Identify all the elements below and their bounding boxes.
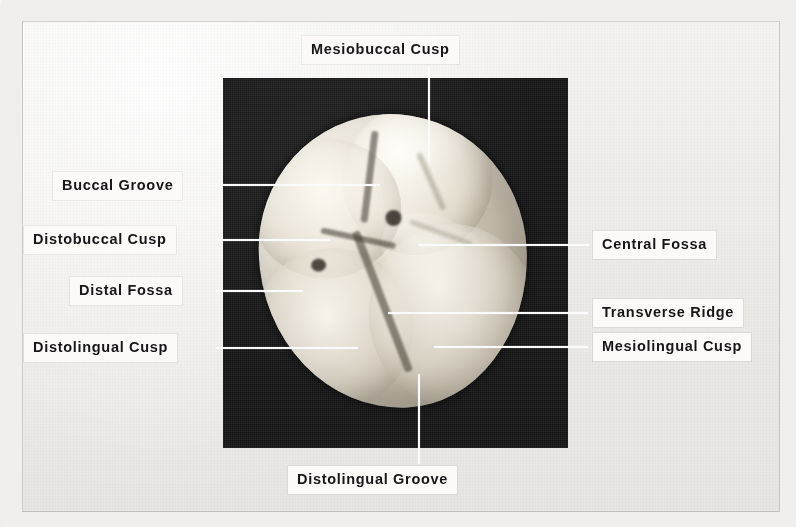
label-central-fossa[interactable]: Central Fossa (593, 231, 716, 259)
central-fossa-pit (385, 210, 402, 227)
leader-line-mesiolingual-cusp (434, 346, 588, 348)
leader-line-transverse-ridge (388, 312, 588, 314)
leader-line-central-fossa (419, 244, 589, 246)
transverse-ridge-fissure (409, 219, 473, 246)
transverse-ridge-highlight (369, 198, 501, 309)
label-distal-fossa[interactable]: Distal Fossa (70, 277, 182, 305)
leader-line-distolingual-cusp (216, 347, 358, 349)
leader-line-distal-fossa (216, 290, 303, 292)
label-distobuccal-cusp[interactable]: Distobuccal Cusp (24, 226, 176, 254)
buccal-groove-fissure (360, 131, 378, 223)
leader-line-distobuccal-cusp (216, 239, 330, 241)
distolingual-groove-fissure (352, 230, 413, 373)
distal-fossa-pit (311, 258, 326, 272)
label-mesiolingual-cusp[interactable]: Mesiolingual Cusp (593, 333, 751, 361)
label-transverse-ridge[interactable]: Transverse Ridge (593, 299, 743, 327)
leader-line-buccal-groove (216, 184, 380, 186)
distobuccal-fissure (320, 227, 396, 249)
tooth-photograph (223, 78, 568, 448)
label-mesiobuccal-cusp[interactable]: Mesiobuccal Cusp (302, 36, 459, 64)
leader-line-distolingual-groove (418, 374, 420, 464)
label-distolingual-cusp[interactable]: Distolingual Cusp (24, 334, 177, 362)
label-distolingual-groove[interactable]: Distolingual Groove (288, 466, 457, 494)
mesial-marginal-groove (416, 152, 447, 211)
figure-plate: Mesiobuccal Cusp Buccal Groove Distobucc… (0, 0, 796, 527)
label-buccal-groove[interactable]: Buccal Groove (53, 172, 182, 200)
leader-line-mesiobuccal-cusp (428, 66, 430, 162)
